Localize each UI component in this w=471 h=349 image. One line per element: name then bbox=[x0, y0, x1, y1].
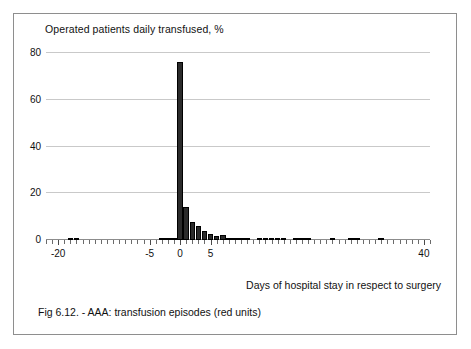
x-tick--14 bbox=[95, 240, 96, 244]
x-tick--3 bbox=[162, 240, 163, 244]
x-tick-36 bbox=[400, 240, 401, 244]
x-tick-18 bbox=[290, 240, 291, 244]
x-tick--5 bbox=[150, 240, 151, 245]
x-tick-33 bbox=[381, 240, 382, 244]
x-axis-title: Days of hospital stay in respect to surg… bbox=[14, 279, 441, 291]
x-tick-29 bbox=[357, 240, 358, 244]
bar-day-3 bbox=[196, 226, 201, 240]
x-tick-11 bbox=[247, 240, 248, 244]
x-tick-35 bbox=[393, 240, 394, 244]
x-tick-label--5: -5 bbox=[145, 248, 154, 259]
x-tick-3 bbox=[198, 240, 199, 244]
x-tick-34 bbox=[387, 240, 388, 244]
x-tick-22 bbox=[314, 240, 315, 244]
bars-layer bbox=[46, 53, 430, 240]
x-tick--22 bbox=[46, 240, 47, 244]
x-tick-1 bbox=[186, 240, 187, 244]
bar-day-0 bbox=[177, 62, 182, 240]
x-tick-38 bbox=[412, 240, 413, 244]
x-tick-0 bbox=[180, 240, 181, 245]
x-tick-31 bbox=[369, 240, 370, 244]
x-tick-26 bbox=[339, 240, 340, 244]
x-tick--12 bbox=[107, 240, 108, 244]
x-tick-13 bbox=[259, 240, 260, 244]
x-tick-37 bbox=[406, 240, 407, 244]
x-tick--19 bbox=[64, 240, 65, 244]
x-tick--9 bbox=[125, 240, 126, 244]
x-tick-30 bbox=[363, 240, 364, 244]
x-tick--4 bbox=[156, 240, 157, 244]
x-tick--6 bbox=[144, 240, 145, 244]
x-tick-27 bbox=[345, 240, 346, 244]
x-tick--13 bbox=[101, 240, 102, 244]
x-tick--18 bbox=[70, 240, 71, 244]
x-tick-21 bbox=[308, 240, 309, 244]
y-tick-label-80: 80 bbox=[30, 47, 41, 58]
x-tick-15 bbox=[272, 240, 273, 244]
x-axis: -20-50540 bbox=[46, 240, 430, 264]
x-tick-25 bbox=[332, 240, 333, 244]
x-tick-label-0: 0 bbox=[177, 248, 183, 259]
y-tick-label-20: 20 bbox=[30, 187, 41, 198]
x-tick-label--20: -20 bbox=[51, 248, 65, 259]
x-tick-39 bbox=[418, 240, 419, 244]
x-tick-2 bbox=[192, 240, 193, 244]
bar-day-2 bbox=[190, 222, 195, 240]
x-tick-32 bbox=[375, 240, 376, 244]
x-tick-20 bbox=[302, 240, 303, 244]
bar-day-1 bbox=[183, 207, 188, 240]
x-tick-16 bbox=[278, 240, 279, 244]
x-tick-23 bbox=[320, 240, 321, 244]
x-tick-8 bbox=[229, 240, 230, 244]
x-tick-label-40: 40 bbox=[418, 248, 429, 259]
x-tick-24 bbox=[326, 240, 327, 244]
x-tick-5 bbox=[211, 240, 212, 245]
x-tick-4 bbox=[204, 240, 205, 244]
x-tick-41 bbox=[430, 240, 431, 244]
x-tick--7 bbox=[137, 240, 138, 244]
x-tick-12 bbox=[253, 240, 254, 244]
x-tick--8 bbox=[131, 240, 132, 244]
x-tick-7 bbox=[223, 240, 224, 244]
x-tick--15 bbox=[89, 240, 90, 244]
y-tick-label-0: 0 bbox=[35, 234, 41, 245]
x-tick--11 bbox=[113, 240, 114, 244]
x-tick-40 bbox=[424, 240, 425, 245]
x-tick--17 bbox=[76, 240, 77, 244]
figure-frame: Operated patients daily transfused, % 02… bbox=[13, 13, 457, 335]
y-tick-label-60: 60 bbox=[30, 93, 41, 104]
x-tick-9 bbox=[235, 240, 236, 244]
x-tick--2 bbox=[168, 240, 169, 244]
x-tick-14 bbox=[265, 240, 266, 244]
x-tick--10 bbox=[119, 240, 120, 244]
bar-day-4 bbox=[202, 231, 207, 240]
x-tick--16 bbox=[83, 240, 84, 244]
x-tick-17 bbox=[284, 240, 285, 244]
figure-caption: Fig 6.12. - AAA: transfusion episodes (r… bbox=[38, 306, 261, 318]
y-tick-label-40: 40 bbox=[30, 140, 41, 151]
x-tick-10 bbox=[241, 240, 242, 244]
x-tick-label-5: 5 bbox=[208, 248, 214, 259]
x-tick-6 bbox=[217, 240, 218, 244]
x-tick--1 bbox=[174, 240, 175, 244]
x-tick--20 bbox=[58, 240, 59, 245]
chart-title: Operated patients daily transfused, % bbox=[45, 23, 224, 35]
x-tick-28 bbox=[351, 240, 352, 244]
x-tick--21 bbox=[52, 240, 53, 244]
plot-area: 020406080 bbox=[46, 53, 430, 240]
x-tick-19 bbox=[296, 240, 297, 244]
